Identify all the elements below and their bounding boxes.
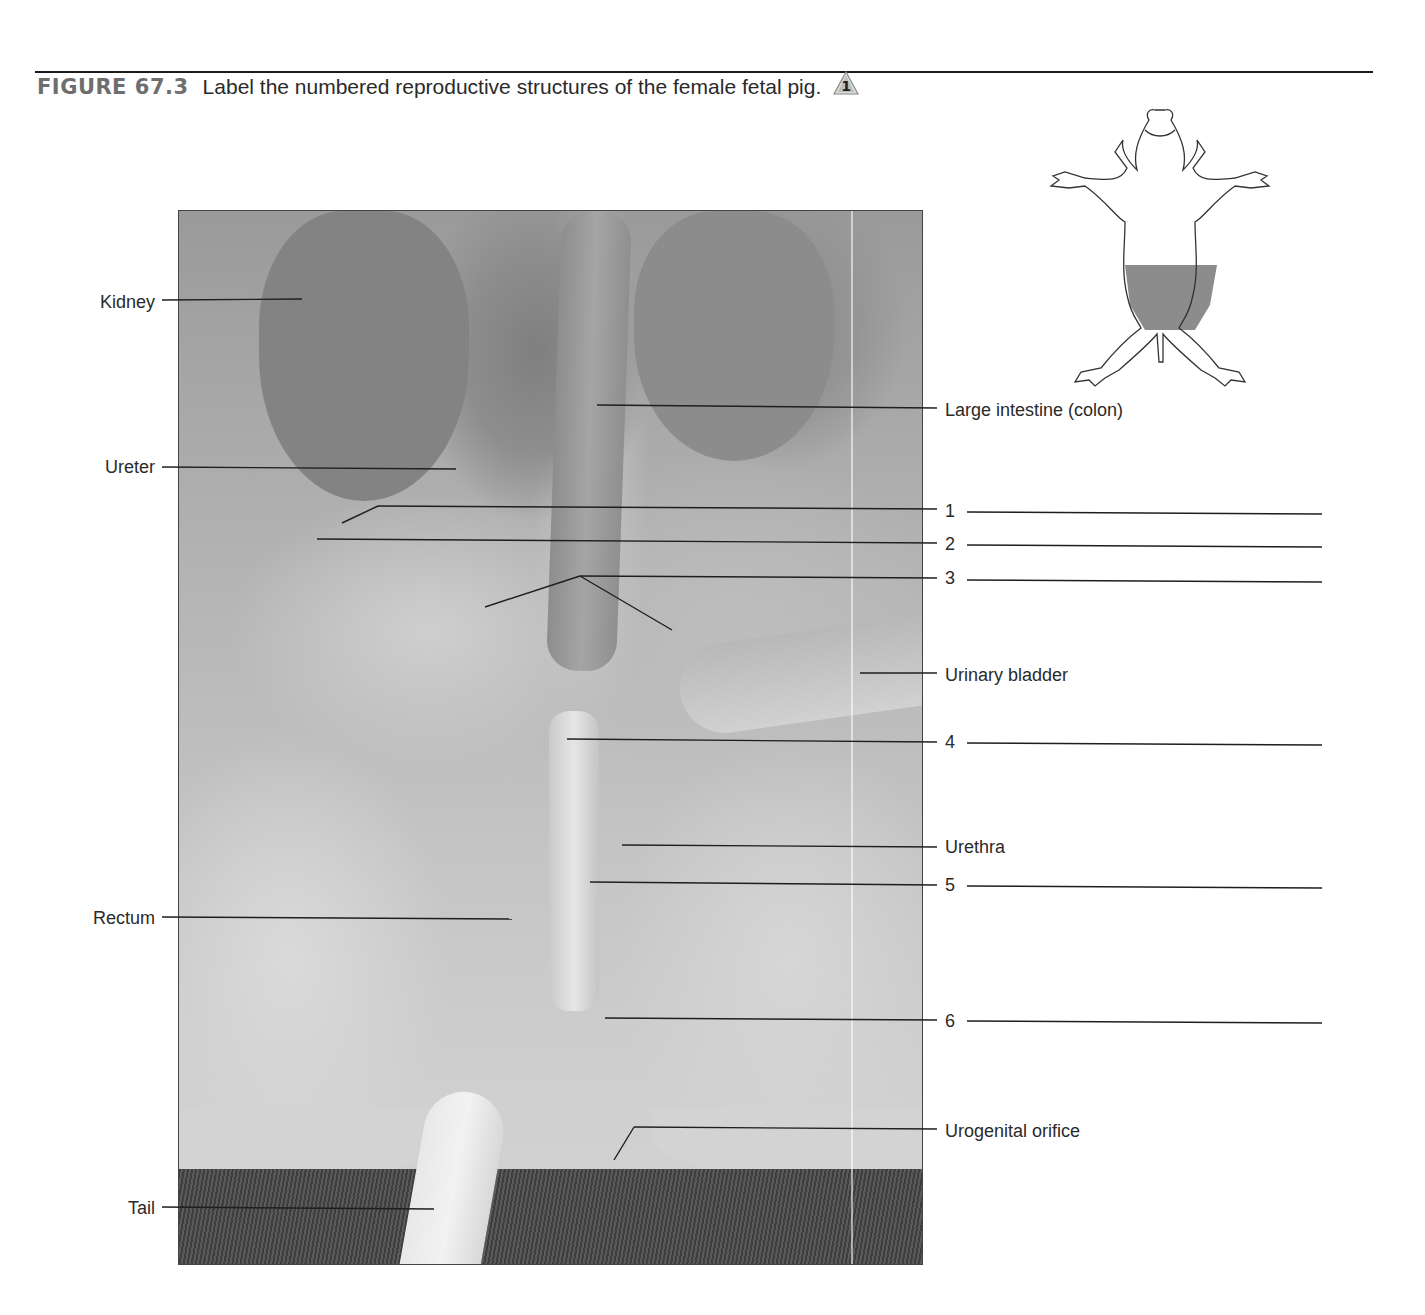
- label-large-intestine: Large intestine (colon): [945, 400, 1123, 420]
- label-urethra: Urethra: [945, 837, 1005, 857]
- label-urinary-bladder: Urinary bladder: [945, 665, 1068, 685]
- label-number-1: 1: [945, 501, 955, 521]
- leader-lines: [0, 0, 1425, 1315]
- label-rectum: Rectum: [60, 908, 155, 928]
- label-kidney: Kidney: [60, 292, 155, 312]
- label-number-4: 4: [945, 732, 955, 752]
- label-number-5: 5: [945, 875, 955, 895]
- label-number-6: 6: [945, 1011, 955, 1031]
- label-number-3: 3: [945, 568, 955, 588]
- label-number-2: 2: [945, 534, 955, 554]
- label-urogenital-orifice: Urogenital orifice: [945, 1121, 1080, 1141]
- label-tail: Tail: [60, 1198, 155, 1218]
- label-ureter: Ureter: [60, 457, 155, 477]
